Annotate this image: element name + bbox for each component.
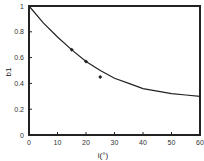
y-tick-label: 0.4: [14, 80, 24, 87]
x-axis-label: i(°): [98, 151, 109, 160]
x-tick-label: 50: [168, 139, 176, 146]
y-tick-label: 0.8: [14, 28, 24, 35]
y-tick-label: 0: [20, 132, 24, 139]
x-tick-label: 0: [27, 139, 31, 146]
data-point-marker: [98, 75, 102, 79]
fitted-curve: [29, 6, 200, 96]
x-tick-label: 30: [111, 139, 119, 146]
chart: 010203040506000.20.40.60.81 i(°) b1: [0, 0, 204, 161]
x-tick-label: 40: [139, 139, 147, 146]
x-tick-label: 60: [196, 139, 204, 146]
y-tick-label: 0.6: [14, 54, 24, 61]
y-tick-label: 0.2: [14, 106, 24, 113]
plot-frame: [29, 6, 200, 135]
ticks: [29, 6, 200, 135]
x-tick-label: 20: [82, 139, 90, 146]
y-axis-label: b1: [4, 67, 13, 76]
y-tick-label: 1: [20, 3, 24, 10]
x-tick-label: 10: [54, 139, 62, 146]
tick-labels: 010203040506000.20.40.60.81: [14, 3, 204, 147]
